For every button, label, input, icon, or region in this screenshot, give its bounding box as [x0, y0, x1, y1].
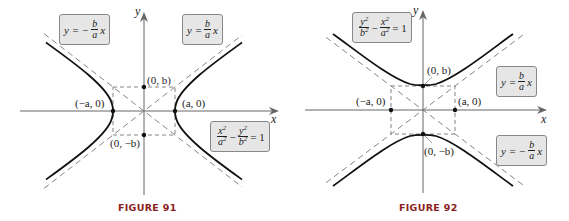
point-vertex-right	[173, 109, 177, 113]
asymptote-positive	[44, 35, 242, 188]
point-co-vertex-left	[389, 108, 393, 112]
label-vertex-right: (a, 0)	[182, 98, 205, 109]
label-co-vertex-left: (−a, 0)	[356, 96, 385, 107]
label-vertex-top: (0, b)	[427, 65, 451, 76]
y-axis-label: y	[135, 4, 140, 19]
label-co-vertex-right: (a, 0)	[458, 96, 481, 107]
leader-line-top	[425, 77, 432, 84]
x-axis-label: x	[271, 112, 276, 127]
figure-92-caption: FIGURE 92	[399, 202, 458, 213]
asymptote-positive-label: y = ba x	[182, 14, 223, 45]
asymptote-negative-label: y = − ba x	[59, 14, 110, 45]
asymptote-negative-label: y = − ba x	[496, 135, 547, 166]
leader-line-bottom	[425, 136, 432, 143]
hyperbola-equation-label: x2a2 − y2b2 = 1	[210, 121, 270, 152]
point-vertex-bottom	[421, 132, 425, 136]
asymptote-negative	[326, 37, 525, 186]
y-axis-label: y	[413, 3, 418, 18]
label-vertex-bottom: (0, −b)	[424, 146, 454, 157]
point-co-vertex-right	[453, 108, 457, 112]
x-axis-label: x	[541, 112, 546, 127]
point-vertex-left	[111, 109, 115, 113]
point-vertex-top	[421, 84, 425, 88]
hyperbola-equation-label: y2b2 − x2a2 = 1	[352, 12, 412, 43]
figure-91-caption: FIGURE 91	[118, 202, 177, 213]
asymptote-negative	[44, 34, 242, 187]
label-co-vertex-top: (0, b)	[147, 75, 171, 86]
point-co-vertex-bottom	[142, 133, 146, 137]
asymptote-positive-label: y = ba x	[496, 66, 537, 97]
label-vertex-left: (−a, 0)	[75, 98, 104, 109]
label-co-vertex-bottom: (0, −b)	[110, 138, 140, 149]
point-co-vertex-top	[142, 85, 146, 89]
